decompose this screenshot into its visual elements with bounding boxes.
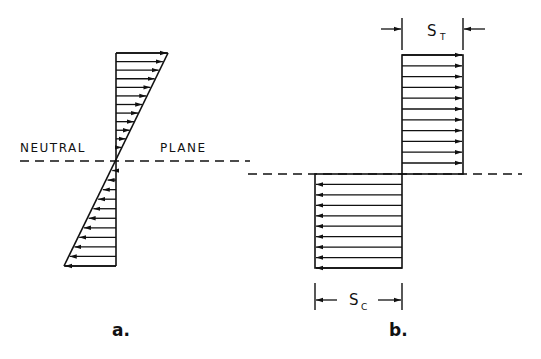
figure-a-triangular-distribution: NEUTRAL PLANE a.	[20, 53, 250, 340]
caption-b: b.	[389, 320, 408, 340]
tension-arrows-b	[402, 55, 462, 163]
compression-block	[315, 174, 402, 268]
plane-label: PLANE	[160, 141, 206, 155]
compression-arrows-a	[65, 171, 116, 266]
figure-b-rectangular-distribution: S T S C b.	[248, 18, 522, 340]
tension-subscript: T	[439, 32, 446, 42]
neutral-label: NEUTRAL	[20, 141, 86, 155]
tension-block	[402, 55, 463, 174]
stress-distribution-diagram: NEUTRAL PLANE a. S T S C	[0, 0, 541, 359]
compression-dimension: S C	[315, 283, 402, 312]
tension-arrows-a	[116, 53, 167, 147]
compression-subscript: C	[361, 302, 367, 312]
caption-a: a.	[112, 320, 130, 340]
tension-stress-label: S	[427, 22, 437, 40]
compression-arrows-b	[316, 184, 402, 268]
tension-dimension: S T	[381, 18, 485, 50]
compression-stress-label: S	[349, 291, 359, 309]
